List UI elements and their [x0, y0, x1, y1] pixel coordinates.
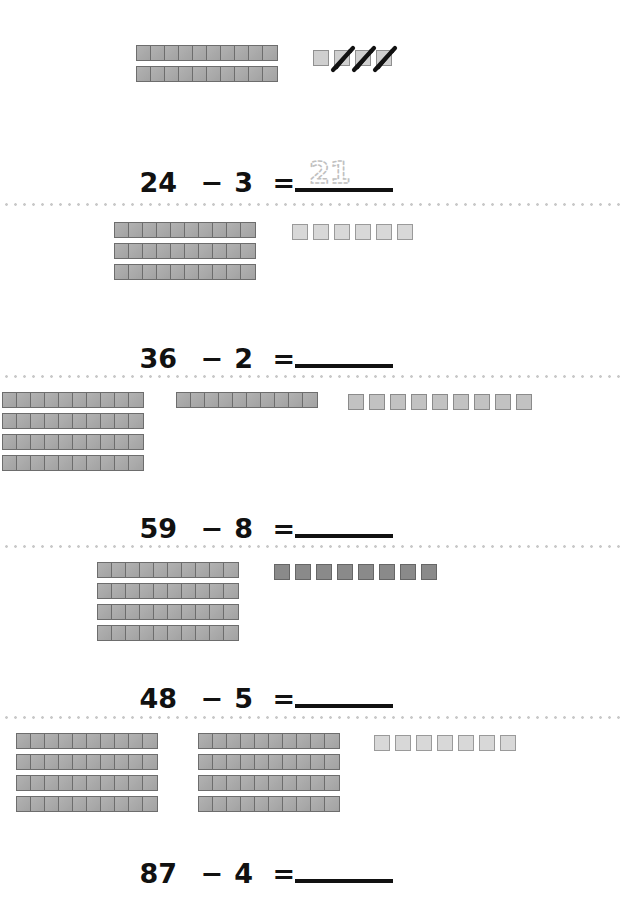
rod-cell	[126, 626, 140, 640]
equals-sign-icon: =	[253, 167, 295, 198]
rod-cell	[297, 734, 311, 748]
rod-cell	[73, 797, 87, 811]
rod-cell	[17, 755, 31, 769]
rod-cell	[311, 776, 325, 790]
rod-cell	[73, 393, 87, 407]
rod-cell	[249, 46, 263, 60]
rod-cell	[87, 755, 101, 769]
rod-cell	[31, 435, 45, 449]
unit-cube	[416, 735, 432, 751]
rod-cell	[59, 755, 73, 769]
equals-sign-icon: =	[253, 858, 295, 889]
ten-rod	[16, 796, 158, 812]
rod-cell	[157, 223, 171, 237]
rod-cell	[325, 734, 339, 748]
rod-cell	[154, 626, 168, 640]
rod-cell	[126, 563, 140, 577]
separator-4	[0, 716, 623, 719]
rod-cell	[115, 244, 129, 258]
svg-text:21: 21	[309, 155, 351, 187]
ten-rod	[2, 434, 144, 450]
rod-cell	[227, 797, 241, 811]
rod-cell	[115, 776, 129, 790]
rod-cell	[59, 776, 73, 790]
rod-cell	[143, 755, 157, 769]
rod-cell	[303, 393, 317, 407]
problem-4-answer-blank[interactable]	[295, 670, 393, 708]
rod-cell	[129, 797, 143, 811]
rod-cell	[157, 244, 171, 258]
minus-sign-icon: −	[177, 167, 223, 198]
rod-cell	[235, 46, 249, 60]
rod-cell	[241, 244, 255, 258]
rod-cell	[199, 734, 213, 748]
rod-cell	[17, 393, 31, 407]
unit-cubes-row	[313, 50, 392, 66]
unit-cube	[421, 564, 437, 580]
rod-cell	[241, 734, 255, 748]
cross-out-slash-icon	[370, 44, 400, 74]
rod-cell	[224, 584, 238, 598]
unit-cube	[400, 564, 416, 580]
rod-cell	[196, 563, 210, 577]
rod-cell	[143, 776, 157, 790]
rod-cell	[179, 67, 193, 81]
rod-cell	[227, 755, 241, 769]
rod-cell	[210, 605, 224, 619]
cross-out-slash-icon	[328, 44, 358, 74]
rod-cell	[143, 244, 157, 258]
rod-cell	[269, 734, 283, 748]
problem-1-units	[313, 50, 392, 66]
problem-3-answer-blank[interactable]	[295, 500, 393, 538]
rod-cell	[199, 755, 213, 769]
rod-cell	[140, 584, 154, 598]
rod-cell	[283, 776, 297, 790]
rod-cell	[129, 414, 143, 428]
ten-rod	[198, 796, 340, 812]
ten-rod	[97, 583, 239, 599]
rod-cell	[193, 67, 207, 81]
problem-5-equation: 87 − 4 =	[133, 845, 393, 889]
unit-cube-crossed-out	[334, 50, 350, 66]
problem-1-answer-blank[interactable]: 21	[295, 154, 393, 192]
ten-rod	[16, 754, 158, 770]
rod-cell	[154, 584, 168, 598]
unit-cube	[453, 394, 469, 410]
unit-cube	[292, 224, 308, 240]
minus-sign-icon: −	[177, 858, 223, 889]
rod-cell	[213, 734, 227, 748]
unit-cube	[374, 735, 390, 751]
ten-rod	[16, 775, 158, 791]
rod-cell	[311, 734, 325, 748]
rod-cell	[154, 563, 168, 577]
problem-5-answer-blank[interactable]	[295, 845, 393, 883]
rod-cell	[112, 626, 126, 640]
cross-out-slash-icon	[349, 44, 379, 74]
ten-rod	[2, 455, 144, 471]
rod-cell	[227, 734, 241, 748]
rod-cell	[31, 456, 45, 470]
rod-cell	[255, 734, 269, 748]
rod-cell	[171, 265, 185, 279]
rod-cell	[87, 435, 101, 449]
problem-2-answer-blank[interactable]	[295, 330, 393, 368]
rod-cell	[297, 776, 311, 790]
unit-cube-crossed-out	[376, 50, 392, 66]
rod-cell	[219, 393, 233, 407]
rod-cell	[213, 776, 227, 790]
rod-cell	[154, 605, 168, 619]
rod-cell	[17, 435, 31, 449]
ten-rod	[97, 625, 239, 641]
rod-cell	[177, 393, 191, 407]
rod-cell	[205, 393, 219, 407]
rod-cell	[115, 435, 129, 449]
rod-cell	[210, 563, 224, 577]
rod-cell	[140, 605, 154, 619]
rod-cell	[283, 755, 297, 769]
rod-cell	[325, 776, 339, 790]
rod-cell	[59, 734, 73, 748]
rod-cell	[143, 797, 157, 811]
rod-cell	[87, 393, 101, 407]
separator-2	[0, 375, 623, 378]
worksheet-page: 24 − 3 = 21 36 − 2 = 59 −	[0, 0, 623, 910]
